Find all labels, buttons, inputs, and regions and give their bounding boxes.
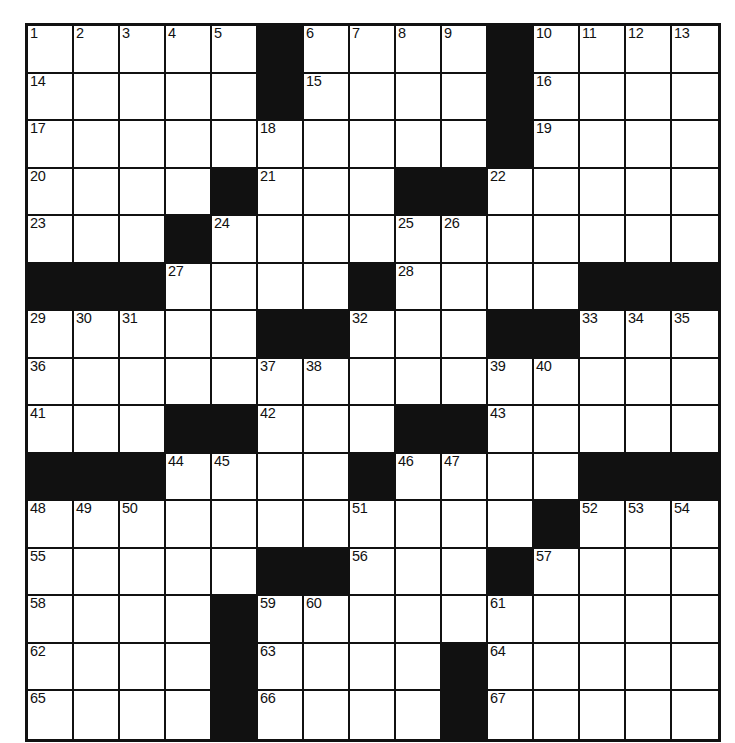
crossword-cell[interactable] bbox=[166, 121, 212, 169]
crossword-cell[interactable] bbox=[396, 549, 442, 597]
crossword-cell[interactable]: 61 bbox=[488, 596, 534, 644]
crossword-cell[interactable] bbox=[626, 121, 672, 169]
crossword-cell[interactable] bbox=[166, 74, 212, 122]
crossword-cell[interactable] bbox=[350, 644, 396, 692]
crossword-cell[interactable]: 15 bbox=[304, 74, 350, 122]
crossword-cell[interactable]: 55 bbox=[28, 549, 74, 597]
crossword-cell[interactable] bbox=[672, 596, 718, 644]
crossword-cell[interactable] bbox=[166, 501, 212, 549]
crossword-cell[interactable]: 3 bbox=[120, 26, 166, 74]
crossword-cell[interactable]: 30 bbox=[74, 311, 120, 359]
crossword-cell[interactable] bbox=[304, 169, 350, 217]
crossword-cell[interactable] bbox=[488, 501, 534, 549]
crossword-cell[interactable]: 34 bbox=[626, 311, 672, 359]
crossword-cell[interactable] bbox=[258, 264, 304, 312]
crossword-cell[interactable]: 56 bbox=[350, 549, 396, 597]
crossword-cell[interactable]: 7 bbox=[350, 26, 396, 74]
crossword-cell[interactable] bbox=[672, 216, 718, 264]
crossword-cell[interactable] bbox=[350, 596, 396, 644]
crossword-cell[interactable]: 28 bbox=[396, 264, 442, 312]
crossword-cell[interactable]: 27 bbox=[166, 264, 212, 312]
crossword-cell[interactable] bbox=[626, 406, 672, 454]
crossword-cell[interactable]: 57 bbox=[534, 549, 580, 597]
crossword-cell[interactable]: 26 bbox=[442, 216, 488, 264]
crossword-cell[interactable] bbox=[672, 644, 718, 692]
crossword-cell[interactable] bbox=[258, 501, 304, 549]
crossword-cell[interactable] bbox=[350, 691, 396, 739]
crossword-cell[interactable] bbox=[626, 644, 672, 692]
crossword-cell[interactable] bbox=[74, 359, 120, 407]
crossword-cell[interactable] bbox=[580, 596, 626, 644]
crossword-cell[interactable] bbox=[534, 691, 580, 739]
crossword-cell[interactable]: 11 bbox=[580, 26, 626, 74]
crossword-cell[interactable] bbox=[304, 691, 350, 739]
crossword-cell[interactable] bbox=[120, 359, 166, 407]
crossword-cell[interactable]: 39 bbox=[488, 359, 534, 407]
crossword-cell[interactable]: 14 bbox=[28, 74, 74, 122]
crossword-cell[interactable] bbox=[120, 216, 166, 264]
crossword-cell[interactable] bbox=[304, 501, 350, 549]
crossword-cell[interactable]: 53 bbox=[626, 501, 672, 549]
crossword-cell[interactable]: 13 bbox=[672, 26, 718, 74]
crossword-cell[interactable] bbox=[74, 406, 120, 454]
crossword-cell[interactable] bbox=[396, 596, 442, 644]
crossword-cell[interactable] bbox=[672, 691, 718, 739]
crossword-cell[interactable] bbox=[304, 644, 350, 692]
crossword-cell[interactable] bbox=[120, 121, 166, 169]
crossword-cell[interactable]: 8 bbox=[396, 26, 442, 74]
crossword-cell[interactable] bbox=[120, 691, 166, 739]
crossword-cell[interactable]: 41 bbox=[28, 406, 74, 454]
crossword-cell[interactable]: 12 bbox=[626, 26, 672, 74]
crossword-cell[interactable] bbox=[396, 359, 442, 407]
crossword-cell[interactable] bbox=[442, 121, 488, 169]
crossword-cell[interactable] bbox=[212, 311, 258, 359]
crossword-cell[interactable] bbox=[212, 74, 258, 122]
crossword-cell[interactable]: 23 bbox=[28, 216, 74, 264]
crossword-cell[interactable]: 64 bbox=[488, 644, 534, 692]
crossword-cell[interactable] bbox=[580, 216, 626, 264]
crossword-cell[interactable]: 54 bbox=[672, 501, 718, 549]
crossword-cell[interactable]: 52 bbox=[580, 501, 626, 549]
crossword-cell[interactable] bbox=[304, 216, 350, 264]
crossword-cell[interactable] bbox=[488, 264, 534, 312]
crossword-cell[interactable] bbox=[212, 264, 258, 312]
crossword-cell[interactable] bbox=[166, 644, 212, 692]
crossword-cell[interactable] bbox=[212, 549, 258, 597]
crossword-cell[interactable] bbox=[74, 121, 120, 169]
crossword-cell[interactable]: 45 bbox=[212, 454, 258, 502]
crossword-cell[interactable] bbox=[350, 121, 396, 169]
crossword-cell[interactable]: 42 bbox=[258, 406, 304, 454]
crossword-cell[interactable] bbox=[212, 121, 258, 169]
crossword-cell[interactable] bbox=[350, 74, 396, 122]
crossword-cell[interactable] bbox=[350, 359, 396, 407]
crossword-cell[interactable]: 33 bbox=[580, 311, 626, 359]
crossword-cell[interactable] bbox=[626, 74, 672, 122]
crossword-cell[interactable] bbox=[304, 454, 350, 502]
crossword-cell[interactable] bbox=[166, 596, 212, 644]
crossword-cell[interactable] bbox=[442, 74, 488, 122]
crossword-cell[interactable]: 37 bbox=[258, 359, 304, 407]
crossword-cell[interactable] bbox=[166, 691, 212, 739]
crossword-cell[interactable] bbox=[534, 406, 580, 454]
crossword-cell[interactable] bbox=[166, 549, 212, 597]
crossword-cell[interactable]: 31 bbox=[120, 311, 166, 359]
crossword-cell[interactable] bbox=[304, 264, 350, 312]
crossword-cell[interactable]: 62 bbox=[28, 644, 74, 692]
crossword-cell[interactable]: 59 bbox=[258, 596, 304, 644]
crossword-cell[interactable]: 1 bbox=[28, 26, 74, 74]
crossword-cell[interactable] bbox=[534, 644, 580, 692]
crossword-cell[interactable]: 35 bbox=[672, 311, 718, 359]
crossword-cell[interactable] bbox=[74, 596, 120, 644]
crossword-cell[interactable] bbox=[442, 359, 488, 407]
crossword-cell[interactable]: 51 bbox=[350, 501, 396, 549]
crossword-cell[interactable]: 40 bbox=[534, 359, 580, 407]
crossword-cell[interactable]: 66 bbox=[258, 691, 304, 739]
crossword-cell[interactable] bbox=[166, 311, 212, 359]
crossword-cell[interactable] bbox=[534, 454, 580, 502]
crossword-cell[interactable] bbox=[396, 501, 442, 549]
crossword-cell[interactable]: 58 bbox=[28, 596, 74, 644]
crossword-cell[interactable] bbox=[580, 74, 626, 122]
crossword-cell[interactable] bbox=[626, 549, 672, 597]
crossword-cell[interactable]: 43 bbox=[488, 406, 534, 454]
crossword-cell[interactable]: 2 bbox=[74, 26, 120, 74]
